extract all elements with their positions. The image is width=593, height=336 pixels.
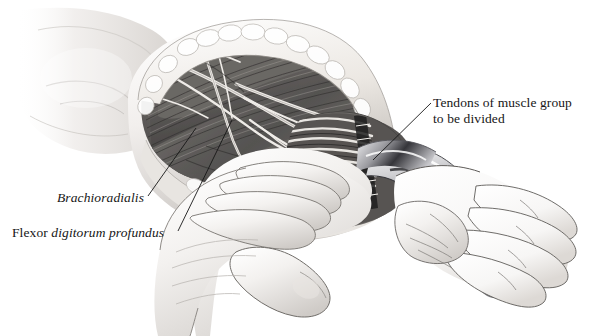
medical-illustration-figure: Brachioradialis Flexor digitorum profund… [0,0,593,336]
label-fdp-roman: Flexor [12,225,48,240]
label-flexor-digitorum-profundus: Flexor digitorum profundus [12,225,164,241]
label-tendons-of-muscle-group: Tendons of muscle groupto be divided [433,95,593,126]
label-brachioradialis: Brachioradialis [57,190,144,206]
label-fdp-italic: digitorum profundus [51,225,164,240]
label-tendons-line2: to be divided [433,111,593,127]
label-tendons-line1: Tendons of muscle group [433,95,572,110]
forearm-dissection-artwork [0,0,593,336]
